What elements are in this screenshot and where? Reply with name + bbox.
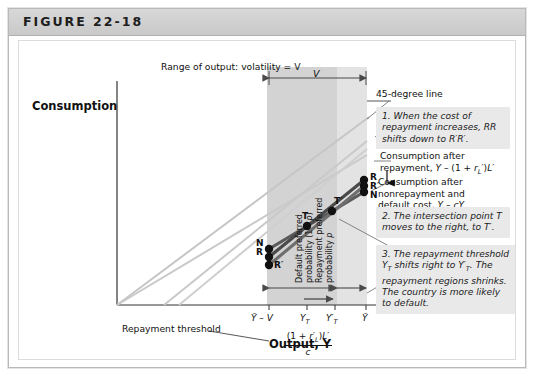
note-consumption-after-repayment: Consumption afterrepayment, Y – (1 + rL′… bbox=[380, 151, 510, 178]
point-label-right-n: N bbox=[370, 190, 378, 200]
threshold-formula-numerator: (1 + r′L)L′ bbox=[284, 331, 333, 346]
figure-frame: FIGURE 22-18 bbox=[8, 8, 526, 368]
threshold-formula-denominator: c bbox=[269, 346, 347, 357]
default-region-label: Default preferred bbox=[295, 214, 304, 283]
figure-title: FIGURE 22-18 bbox=[23, 14, 143, 29]
callout-2: 2. The intersection point T moves to the… bbox=[376, 207, 510, 238]
callout-3: 3. The repayment threshold YT shifts rig… bbox=[376, 245, 516, 314]
point-label-left-r-prime: R′ bbox=[274, 260, 283, 270]
tick-label-y-bar: Ȳ bbox=[362, 313, 368, 323]
repayment-threshold-label: Repayment threshold bbox=[122, 323, 221, 334]
point-label-t-prime: T′ bbox=[334, 196, 343, 206]
volatility-bracket-label: V bbox=[313, 68, 320, 79]
tick-label-yt-prime: Y′T bbox=[326, 313, 338, 326]
point-left-r bbox=[265, 253, 273, 261]
tick-label-y-minus-v: Ȳ – V bbox=[251, 313, 273, 323]
forty-five-degree-line-label: 45-degree line bbox=[376, 88, 443, 99]
threshold-formula: (1 + r′L)L′ c bbox=[269, 331, 347, 357]
chart-canvas: Consumption Output, Y Range of output: v… bbox=[18, 40, 516, 360]
point-label-left-r: R bbox=[256, 247, 263, 257]
point-t-prime bbox=[328, 207, 336, 215]
callout-1: 1. When the cost of repayment increases,… bbox=[376, 107, 510, 149]
figure-title-bar: FIGURE 22-18 bbox=[9, 9, 525, 36]
repayment-region-probability: probability p bbox=[325, 233, 334, 283]
point-left-n bbox=[265, 245, 273, 253]
range-of-output-label: Range of output: volatility = V bbox=[161, 61, 301, 72]
y-axis-label: Consumption bbox=[32, 99, 117, 113]
default-region-probability: probability (1 – p) bbox=[305, 212, 314, 283]
point-right-n bbox=[360, 188, 368, 196]
point-left-rprime bbox=[265, 261, 273, 269]
repayment-region-label: Repayment preferred bbox=[315, 198, 324, 283]
tick-label-yt: YT bbox=[300, 313, 310, 326]
